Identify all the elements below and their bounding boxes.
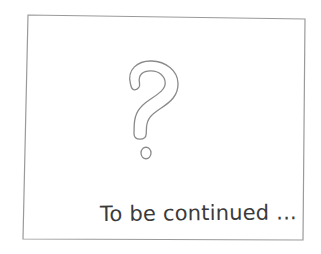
- slide-canvas: To be continued ...: [0, 0, 321, 254]
- question-mark-outline-icon: [130, 61, 178, 139]
- question-mark-dot-icon: [141, 147, 151, 159]
- question-mark-stroke: [130, 61, 178, 139]
- question-dot-stroke: [141, 147, 151, 159]
- question-mark-group: [0, 0, 321, 254]
